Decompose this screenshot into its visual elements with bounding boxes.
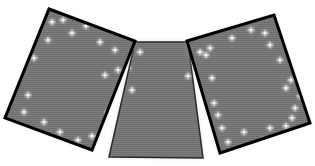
panels-illustration <box>0 0 315 166</box>
trifold-panels-graphic <box>0 0 315 166</box>
right-panel <box>185 15 311 153</box>
